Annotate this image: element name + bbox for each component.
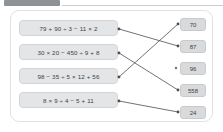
unconnected-anchor-dot[interactable]	[175, 67, 177, 69]
expression-text: 30 × 20 − 450 ÷ 9 + 8	[37, 49, 99, 56]
answer-text: 558	[188, 88, 198, 94]
answer-text: 96	[190, 66, 197, 72]
answer-text: 24	[190, 110, 197, 116]
connector-line[interactable]	[118, 23, 180, 79]
answer-text: 70	[190, 22, 197, 28]
expression-item[interactable]: 98 − 35 ÷ 5 × 12 + 56	[19, 68, 118, 84]
connector-line[interactable]	[118, 52, 180, 92]
expression-text: 98 − 35 ÷ 5 × 12 + 56	[37, 73, 99, 80]
top-strip-tab[interactable]	[4, 0, 60, 6]
top-strip-divider	[62, 5, 223, 6]
expression-item[interactable]: 79 + 90 ÷ 3 − 11 × 2	[19, 20, 118, 36]
browser-top-strip	[0, 0, 223, 7]
expression-item[interactable]: 8 × 9 ÷ 4 − 5 + 11	[19, 92, 118, 108]
expression-column: 79 + 90 ÷ 3 − 11 × 2 30 × 20 − 450 ÷ 9 +…	[19, 20, 118, 116]
connector-line[interactable]	[118, 28, 180, 48]
expression-text: 79 + 90 ÷ 3 − 11 × 2	[39, 25, 97, 32]
answer-item[interactable]: 96	[180, 62, 206, 75]
expression-item[interactable]: 30 × 20 − 450 ÷ 9 + 8	[19, 44, 118, 60]
answer-item[interactable]: 70	[180, 18, 206, 31]
exercise-card: 79 + 90 ÷ 3 − 11 × 2 30 × 20 − 450 ÷ 9 +…	[10, 10, 213, 122]
answer-item[interactable]: 24	[180, 106, 206, 119]
matching-exercise-app: 79 + 90 ÷ 3 − 11 × 2 30 × 20 − 450 ÷ 9 +…	[0, 0, 223, 132]
connector-line[interactable]	[118, 100, 180, 114]
answer-text: 87	[190, 44, 197, 50]
answer-item[interactable]: 87	[180, 40, 206, 53]
answer-column: 70 87 96 558 24	[180, 18, 206, 128]
expression-text: 8 × 9 ÷ 4 − 5 + 11	[43, 97, 94, 104]
answer-item[interactable]: 558	[180, 84, 206, 97]
